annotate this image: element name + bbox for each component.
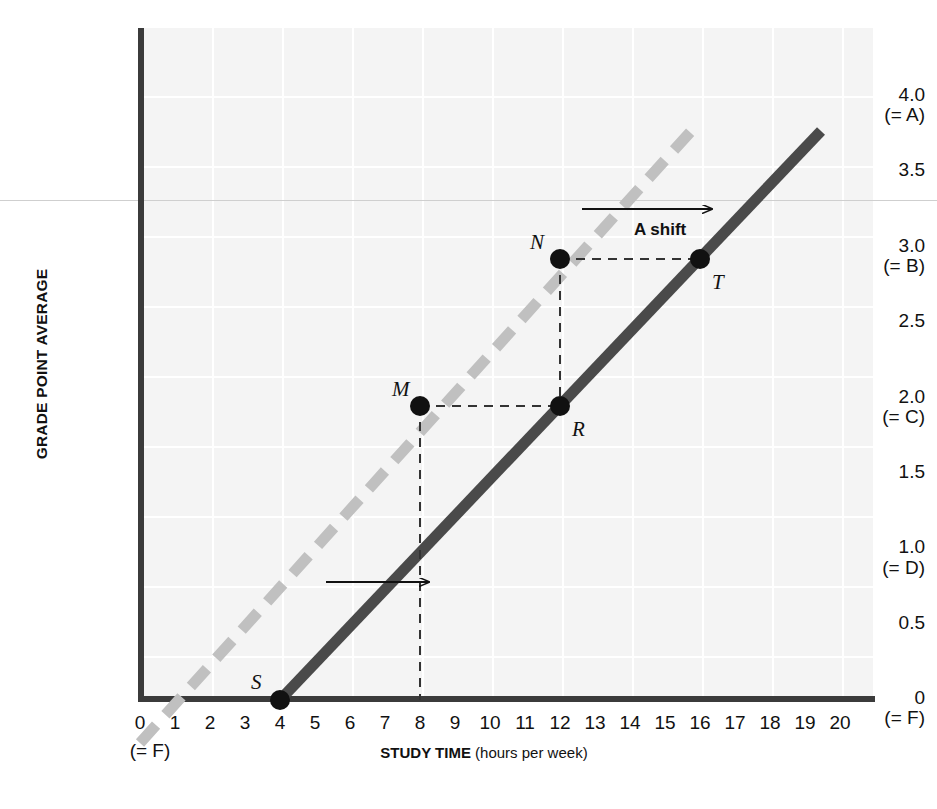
data-point-R[interactable] (550, 396, 570, 416)
x-tick-1: 1 (155, 712, 195, 734)
y-tick-1-0: 1.0(= D) (805, 537, 937, 578)
y-tick-value: 2.5 (899, 310, 925, 331)
x-tick-3: 3 (225, 712, 265, 734)
x-tick-12: 12 (540, 712, 580, 734)
y-tick-value: 3.0 (899, 235, 925, 256)
y-tick-value: 4.0 (899, 84, 925, 105)
y-tick-value: 1.0 (899, 536, 925, 557)
y-tick-value: 2.0 (899, 386, 925, 407)
y-tick-value: 0.5 (899, 612, 925, 633)
y-tick-3-5: 3.5 (805, 160, 937, 180)
x-tick-19: 19 (785, 712, 825, 734)
shift-annotation-label: A shift (634, 220, 686, 240)
x-tick-0: 0 (120, 712, 160, 734)
data-point-M[interactable] (410, 396, 430, 416)
figure-root: M N R S T A shift GRADE POINT AVERAGE ST… (0, 0, 937, 809)
x-tick-16: 16 (680, 712, 720, 734)
y-tick-1-5: 1.5 (805, 462, 937, 482)
y-tick-grade: (= C) (805, 407, 925, 427)
original-curve-line (140, 129, 693, 743)
data-point-label-S: S (251, 670, 262, 695)
x-tick-4: 4 (260, 712, 300, 734)
x-tick-label-F-sub: (= F) (120, 740, 180, 762)
x-axis-title-rest: (hours per week) (471, 744, 588, 761)
x-tick-17: 17 (715, 712, 755, 734)
y-tick-value: 1.5 (899, 461, 925, 482)
y-tick-0-5: 0.5 (805, 613, 937, 633)
data-point-label-R: R (572, 417, 585, 442)
data-point-label-N: N (530, 230, 544, 255)
x-tick-18: 18 (750, 712, 790, 734)
y-tick-4-0: 4.0(= A) (805, 85, 937, 126)
y-tick-grade: (= B) (805, 256, 925, 276)
x-tick-5: 5 (295, 712, 335, 734)
data-point-label-T: T (712, 270, 724, 295)
x-axis-title-strong: STUDY TIME (380, 744, 471, 761)
y-tick-grade: (= A) (805, 105, 925, 125)
x-tick-13: 13 (575, 712, 615, 734)
data-point-N[interactable] (550, 249, 570, 269)
x-axis-title: STUDY TIME (hours per week) (144, 744, 824, 761)
y-tick-value: 3.5 (899, 159, 925, 180)
y-tick-3-0: 3.0(= B) (805, 236, 937, 277)
y-tick-2-5: 2.5 (805, 311, 937, 331)
x-tick-11: 11 (505, 712, 545, 734)
x-tick-10: 10 (470, 712, 510, 734)
x-tick-8: 8 (400, 712, 440, 734)
data-point-T[interactable] (690, 249, 710, 269)
x-tick-2: 2 (190, 712, 230, 734)
x-tick-14: 14 (610, 712, 650, 734)
shifted-curve-line (280, 131, 821, 700)
x-tick-9: 9 (435, 712, 475, 734)
x-tick-20: 20 (820, 712, 860, 734)
x-tick-7: 7 (365, 712, 405, 734)
y-tick-2-0: 2.0(= C) (805, 387, 937, 428)
y-axis-title: GRADE POINT AVERAGE (33, 234, 51, 494)
data-point-label-M: M (392, 377, 410, 402)
data-point-S[interactable] (270, 690, 290, 710)
x-tick-6: 6 (330, 712, 370, 734)
curves-layer (0, 0, 937, 809)
x-tick-15: 15 (645, 712, 685, 734)
y-tick-value: 0 (914, 687, 925, 708)
y-tick-grade: (= D) (805, 558, 925, 578)
